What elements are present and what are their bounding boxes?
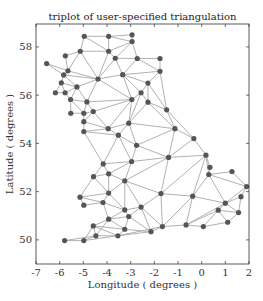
triangulation-edge (162, 196, 192, 226)
triangulation-edge (137, 129, 175, 146)
data-point (84, 99, 89, 104)
triangulation-edge (84, 202, 103, 205)
triangulation-edge (148, 102, 175, 129)
triangulation-edge (186, 196, 193, 225)
triangulation-edge (109, 181, 125, 193)
triangulation-edge (84, 36, 108, 51)
x-tick-label: -2 (149, 267, 159, 278)
triangulation-edge (109, 174, 125, 181)
triangulation-edge (129, 102, 148, 123)
triangulation-edge (186, 203, 225, 225)
y-tick-label: 50 (19, 234, 32, 245)
x-tick-label: -6 (55, 267, 65, 278)
data-point (63, 53, 68, 58)
y-tick-label: 54 (19, 138, 32, 149)
data-point (106, 49, 111, 54)
triangulation-edge (109, 36, 132, 41)
chart-title: triplot of user-specified triangulation (49, 11, 237, 22)
data-point (91, 223, 96, 228)
data-point (122, 227, 127, 232)
triangulation-edge (77, 87, 87, 102)
data-point (129, 39, 134, 44)
data-point (53, 90, 58, 95)
data-point (91, 109, 96, 114)
triangulation-edge (225, 187, 246, 204)
triangulation-edge (193, 175, 209, 197)
data-point (225, 220, 230, 225)
triangulation-edge (132, 157, 169, 161)
data-point (59, 80, 64, 85)
x-tick-label: 0 (198, 267, 204, 278)
data-point (206, 172, 211, 177)
triangulation-edge (186, 210, 218, 225)
data-point (106, 217, 111, 222)
data-point (122, 178, 127, 183)
data-point (223, 201, 228, 206)
triangulation-edge (103, 202, 109, 219)
data-point (120, 72, 125, 77)
data-point (116, 133, 121, 138)
data-point (65, 68, 70, 73)
data-point (95, 76, 100, 81)
y-tick-label: 52 (19, 186, 32, 197)
x-tick-label: -1 (173, 267, 183, 278)
data-point (81, 238, 86, 243)
triangulation-edge (98, 79, 132, 100)
data-point (91, 174, 96, 179)
data-point (145, 100, 150, 105)
data-point (81, 111, 86, 116)
data-point (135, 56, 140, 61)
data-point (122, 207, 127, 212)
data-point (183, 222, 188, 227)
data-point (203, 153, 208, 158)
data-point (148, 229, 153, 234)
y-axis-label: Latitude ( degrees ) (4, 94, 15, 195)
triangulation-edge (186, 225, 203, 227)
triangulation-edge (161, 194, 162, 227)
triangulation-edge (161, 194, 193, 197)
triangulation-edge (141, 194, 161, 208)
data-point (157, 56, 162, 61)
triangulation-edge (125, 181, 141, 207)
data-point (134, 143, 139, 148)
data-point (106, 126, 111, 131)
triangulation-edge (115, 42, 132, 59)
triangulation-edge (98, 58, 115, 79)
triangulation-edge (64, 75, 98, 79)
triangulation-edge (80, 197, 103, 202)
data-point (190, 194, 195, 199)
data-point (106, 171, 111, 176)
x-tick-label: -5 (78, 267, 88, 278)
data-point (157, 69, 162, 74)
data-point (77, 195, 82, 200)
data-point (236, 210, 241, 215)
triangulation-edge (109, 35, 132, 36)
triangulation-edge (167, 110, 175, 129)
data-point (68, 111, 73, 116)
triangulation-edge (80, 193, 109, 197)
data-point (81, 129, 86, 134)
data-point (229, 169, 234, 174)
triangulation-edge (123, 58, 138, 74)
triangulation-edge (115, 58, 122, 74)
data-point (244, 184, 249, 189)
triangulation-edge (47, 64, 64, 75)
triangulation-edge (103, 135, 118, 164)
x-tick-label: 2 (246, 267, 252, 278)
triangulation-edge (80, 177, 93, 198)
triangulation-edge (108, 123, 129, 129)
data-point (238, 194, 243, 199)
data-point (207, 165, 212, 170)
data-point (63, 90, 68, 95)
data-point (62, 238, 67, 243)
triangulation-edge (129, 123, 175, 129)
x-tick-label: 1 (222, 267, 228, 278)
triplot-chart: -7-6-5-4-3-2-1012 5052545658 triplot of … (0, 0, 263, 301)
data-point (61, 72, 66, 77)
data-point (191, 136, 196, 141)
data-point (78, 49, 83, 54)
triangulation-edge (98, 51, 109, 79)
triangulation-edge (94, 177, 109, 193)
x-tick-label: -4 (102, 267, 112, 278)
triangulation-edge (47, 64, 68, 71)
